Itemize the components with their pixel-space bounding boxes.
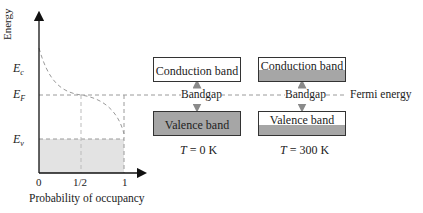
conduction-band-0k: Conduction band xyxy=(153,57,241,82)
fermi-energy-label: Fermi energy xyxy=(347,89,411,101)
x-tick-1: 1 xyxy=(122,177,128,188)
bandgap-label-0k: Bandgap xyxy=(181,89,222,101)
conduction-band-300k: Conduction band xyxy=(258,57,346,82)
y-axis-label: Energy xyxy=(2,8,13,40)
x-tick-0: 0 xyxy=(36,177,42,188)
temperature-300k: T = 300 K xyxy=(280,144,329,156)
ef-label: EF xyxy=(13,88,25,103)
ev-label: Ev xyxy=(13,133,24,148)
x-tick-half: 1/2 xyxy=(73,177,87,188)
valence-band-0k: Valence band xyxy=(153,111,241,136)
diagram-graphics xyxy=(0,0,423,213)
temperature-0k: T = 0 K xyxy=(180,144,217,156)
valence-band-300k: Valence band xyxy=(258,111,346,136)
fermi-dirac-curve xyxy=(39,48,124,134)
x-axis-label: Probability of occupancy xyxy=(29,193,145,205)
ec-label: Ec xyxy=(13,62,24,77)
bandgap-label-300k: Bandgap xyxy=(285,89,326,101)
